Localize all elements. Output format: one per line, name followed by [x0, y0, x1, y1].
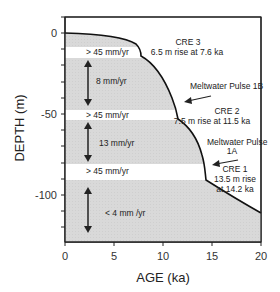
mwp1a-label: Meltwater Pulse [207, 137, 268, 147]
cre1-subtitle-2: at 14.2 ka [216, 184, 254, 194]
mwp1b-label: Meltwater Pulse 1B [190, 81, 264, 91]
cre2-subtitle: 7.5 m rise at 11.5 ka [174, 116, 251, 126]
cre2-title: CRE 2 [214, 106, 239, 116]
band-label-6: < 4 mm /yr [105, 208, 146, 218]
band-label-1: > 45 mm/yr [86, 47, 129, 57]
sea-level-chart: 0 -50 -100 0 5 10 15 20 AGE (ka) DEPTH (… [0, 0, 280, 292]
x-tick-5: 5 [111, 250, 117, 262]
y-axis-title: DEPTH (m) [12, 94, 27, 161]
cre3-title: CRE 3 [175, 37, 200, 47]
band-label-2: 8 mm/yr [96, 76, 127, 86]
x-axis-title: AGE (ka) [136, 270, 189, 285]
x-tick-0: 0 [62, 250, 68, 262]
mwp1a-label-2: 1A [227, 146, 238, 156]
x-tick-10: 10 [157, 250, 169, 262]
band-label-4: 13 mm/yr [99, 138, 135, 148]
cre3-subtitle: 6.5 m rise at 7.6 ka [151, 47, 224, 57]
cre1-subtitle: 13.5 m rise [214, 174, 256, 184]
x-tick-15: 15 [206, 250, 218, 262]
y-tick-0: 0 [51, 27, 57, 39]
y-tick-100: -100 [35, 189, 57, 201]
band-label-3: > 45 mm/yr [86, 110, 129, 120]
x-tick-20: 20 [255, 250, 267, 262]
y-tick-50: -50 [41, 108, 57, 120]
cre1-title: CRE 1 [222, 164, 247, 174]
band-label-5: > 45 mm/yr [86, 166, 129, 176]
